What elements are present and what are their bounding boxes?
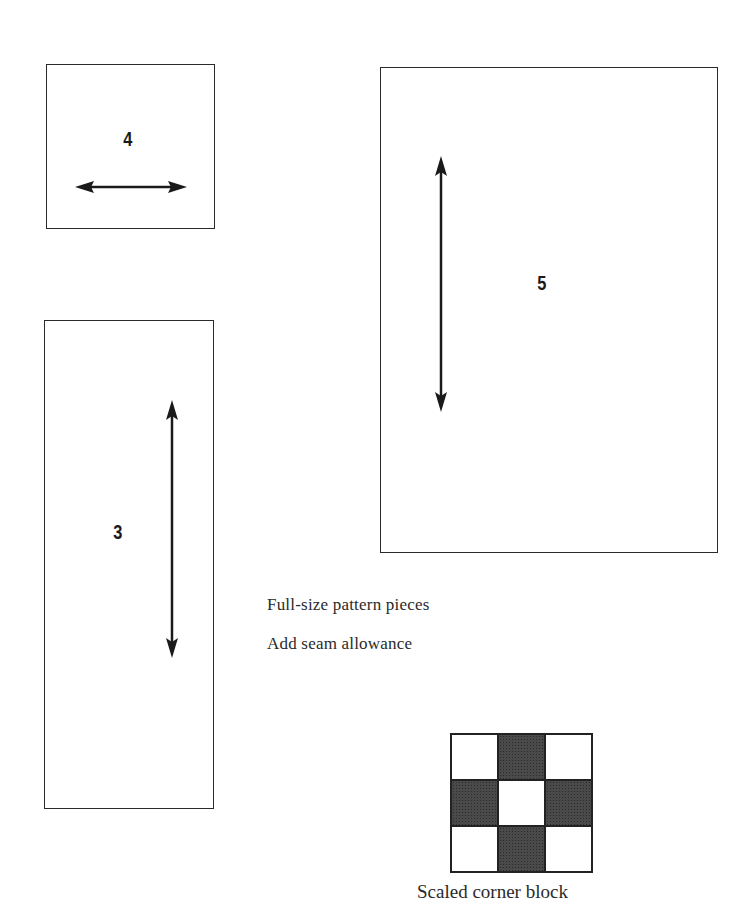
block-cell-light (545, 826, 592, 872)
block-cell-dark (498, 826, 545, 872)
corner-block-caption: Scaled corner block (417, 881, 568, 903)
piece-number-label: 4 (123, 128, 132, 149)
block-cell-light (451, 826, 498, 872)
grainline-arrow-vertical-icon (433, 156, 449, 412)
note-seam-allowance: Add seam allowance (267, 634, 412, 654)
grainline-arrow-horizontal-icon (75, 179, 187, 195)
pattern-piece-3: 3 (44, 320, 214, 809)
block-cell-dark (498, 734, 545, 780)
block-cell-light (545, 734, 592, 780)
block-cell-dark (451, 780, 498, 826)
grainline-arrow-vertical-icon (164, 400, 180, 658)
piece-number-label: 5 (537, 272, 546, 293)
note-full-size: Full-size pattern pieces (267, 595, 429, 615)
pattern-piece-4: 4 (46, 64, 215, 229)
pattern-piece-5: 5 (380, 67, 718, 553)
piece-number-label: 3 (113, 521, 122, 542)
block-cell-light (451, 734, 498, 780)
scaled-corner-block (450, 733, 593, 873)
block-cell-dark (545, 780, 592, 826)
block-cell-light (498, 780, 545, 826)
